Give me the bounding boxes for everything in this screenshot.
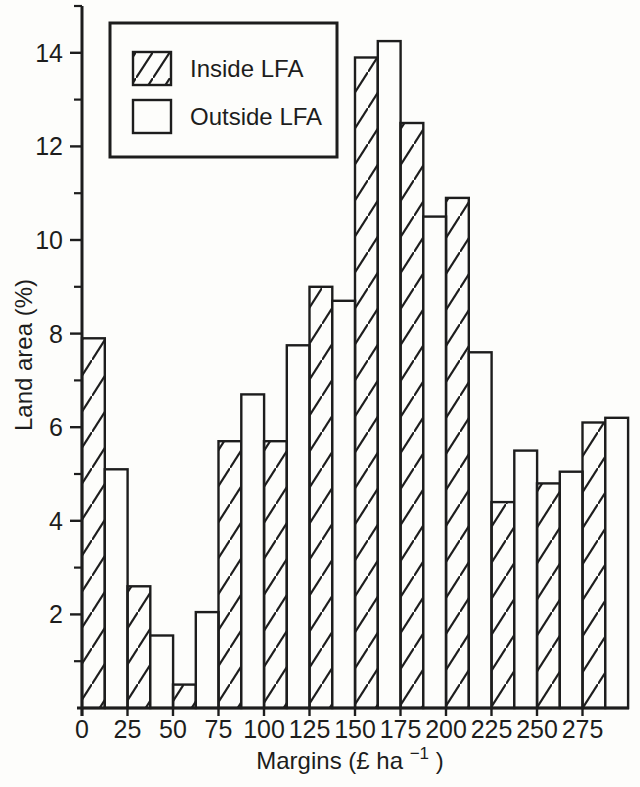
y-axis-ticks: 2468101214 xyxy=(35,6,82,661)
x-tick-label-100: 100 xyxy=(243,715,285,743)
y-tick-label-6: 6 xyxy=(49,413,63,441)
bar-outside-lfa-11 xyxy=(605,418,628,708)
legend-label-outside-lfa: Outside LFA xyxy=(190,103,322,130)
bar-inside-lfa-0 xyxy=(82,338,105,708)
x-tick-label-0: 0 xyxy=(75,715,89,743)
x-tick-label-50: 50 xyxy=(159,715,187,743)
legend-label-inside-lfa: Inside LFA xyxy=(190,55,303,82)
bar-inside-lfa-10 xyxy=(537,483,560,708)
x-axis-title-close: ) xyxy=(436,747,444,774)
bar-outside-lfa-4 xyxy=(287,345,310,708)
legend-swatch-inside-lfa xyxy=(133,52,171,85)
figure-page: 2468101214 02550751001251501752002252502… xyxy=(0,0,640,787)
x-axis-title-main: Margins (£ ha xyxy=(256,747,403,774)
bar-outside-lfa-6 xyxy=(378,41,401,708)
x-tick-label-25: 25 xyxy=(114,715,142,743)
bar-outside-lfa-9 xyxy=(514,451,537,708)
legend-box xyxy=(110,23,337,157)
bar-inside-lfa-9 xyxy=(492,502,515,708)
x-tick-label-225: 225 xyxy=(471,715,513,743)
x-tick-label-250: 250 xyxy=(516,715,558,743)
x-tick-label-125: 125 xyxy=(289,715,331,743)
bar-outside-lfa-10 xyxy=(560,472,583,708)
bar-outside-lfa-3 xyxy=(241,394,264,708)
bar-outside-lfa-0 xyxy=(105,469,128,708)
bar-inside-lfa-4 xyxy=(264,441,287,708)
y-tick-label-4: 4 xyxy=(49,507,63,535)
x-tick-label-150: 150 xyxy=(334,715,376,743)
y-tick-label-2: 2 xyxy=(49,600,63,628)
x-tick-label-275: 275 xyxy=(562,715,604,743)
y-tick-label-8: 8 xyxy=(49,320,63,348)
bar-chart: 2468101214 02550751001251501752002252502… xyxy=(0,0,640,787)
bar-inside-lfa-2 xyxy=(173,685,196,708)
bar-inside-lfa-6 xyxy=(355,58,378,709)
y-axis-title: Land area (%) xyxy=(10,279,37,431)
bar-inside-lfa-8 xyxy=(446,198,469,708)
legend-swatch-outside-lfa xyxy=(133,100,171,133)
bar-inside-lfa-11 xyxy=(583,423,606,709)
bar-inside-lfa-5 xyxy=(310,287,333,708)
bar-outside-lfa-7 xyxy=(423,217,446,708)
y-tick-label-10: 10 xyxy=(35,226,63,254)
bar-inside-lfa-1 xyxy=(128,586,151,708)
bar-outside-lfa-8 xyxy=(469,352,492,708)
bar-outside-lfa-5 xyxy=(332,301,355,708)
x-tick-label-75: 75 xyxy=(205,715,233,743)
x-axis-title-superscript: −1 xyxy=(410,744,429,763)
x-axis-ticks: 0255075100125150175200225250275 xyxy=(75,708,603,743)
bar-inside-lfa-7 xyxy=(401,123,424,708)
bar-outside-lfa-2 xyxy=(196,612,219,708)
legend: Inside LFA Outside LFA xyxy=(110,23,337,157)
y-tick-label-14: 14 xyxy=(35,39,63,67)
bar-inside-lfa-3 xyxy=(219,441,242,708)
bar-outside-lfa-1 xyxy=(150,636,173,709)
y-tick-label-12: 12 xyxy=(35,132,63,160)
x-tick-label-175: 175 xyxy=(380,715,422,743)
